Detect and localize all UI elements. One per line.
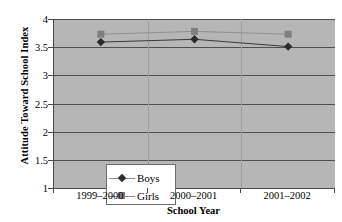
data-point-marker-diamond — [97, 38, 105, 46]
y-axis-tick-label: 1.5 — [4, 154, 48, 165]
y-axis-tick-label: 2 — [4, 126, 48, 137]
series-layer — [54, 19, 335, 188]
data-point-marker-diamond — [190, 35, 198, 43]
data-point-marker-square — [97, 31, 104, 38]
y-axis-tick-label: 3.5 — [4, 42, 48, 53]
series-boys — [97, 35, 293, 51]
legend-item-boys[interactable]: Boys — [107, 168, 177, 188]
y-axis-tick-label: 4 — [4, 14, 48, 25]
y-axis-tick-label: 1 — [4, 183, 48, 194]
x-axis-tick-label: 2000–2001 — [147, 190, 241, 201]
x-axis-tick-label: 1999–2000 — [53, 190, 147, 201]
line-chart: Attitude Toward School Index 11.522.533.… — [0, 0, 342, 222]
legend-marker-sample — [107, 169, 137, 187]
legend-marker-icon — [118, 174, 126, 182]
plot-area: BoysGirls — [53, 19, 335, 189]
y-axis-tick-label: 2.5 — [4, 98, 48, 109]
y-axis-tick-label: 3 — [4, 70, 48, 81]
data-point-marker-diamond — [284, 42, 292, 50]
legend-item-label: Boys — [137, 173, 160, 184]
x-axis-tick-label: 2001–2002 — [240, 190, 334, 201]
data-point-marker-square — [285, 31, 292, 38]
x-axis-title: School Year — [53, 205, 334, 216]
data-point-marker-square — [191, 28, 198, 35]
